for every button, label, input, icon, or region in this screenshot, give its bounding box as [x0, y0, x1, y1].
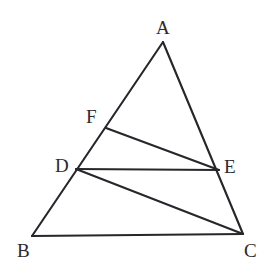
vertex-label-f: F	[86, 107, 97, 126]
vertex-label-a: A	[156, 18, 170, 37]
segments-group	[32, 42, 243, 236]
vertex-label-c: C	[244, 241, 257, 260]
segment-de	[76, 169, 219, 170]
vertex-label-b: B	[17, 241, 30, 260]
figure-canvas	[0, 0, 276, 276]
vertex-label-e: E	[224, 157, 236, 176]
segment-ab	[32, 42, 163, 236]
segment-dc	[76, 169, 243, 234]
segment-ac	[163, 42, 243, 234]
geometry-figure: ABCDEF	[0, 0, 276, 276]
segment-bc	[32, 234, 243, 236]
vertex-label-d: D	[55, 156, 69, 175]
